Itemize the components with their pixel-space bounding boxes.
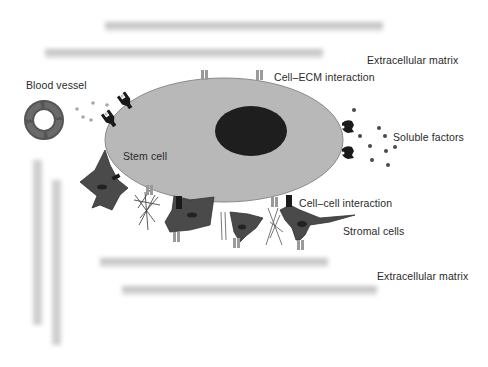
ecm-fibers-left [33, 160, 61, 345]
label-cell-ecm-interaction: Cell–ECM interaction [274, 72, 375, 83]
label-stromal-cells: Stromal cells [343, 226, 404, 237]
fiber-parallel [221, 212, 226, 240]
label-soluble-factors: Soluble factors [393, 132, 464, 143]
stromal-cell-middle [165, 196, 214, 242]
fiber-mesh-left [134, 190, 160, 230]
label-ecm-top: Extracellular matrix [367, 55, 458, 66]
label-ecm-bottom: Extracellular matrix [377, 271, 468, 282]
receptor-right-lower [342, 146, 355, 159]
ecm-fibers-bottom [100, 258, 377, 295]
receptor-right-upper [342, 120, 355, 133]
blood-vessel-icon [29, 105, 59, 135]
label-stem-cell: Stem cell [123, 151, 167, 162]
label-cell-cell-interaction: Cell–cell interaction [299, 198, 392, 209]
stromal-cell-middle-right [230, 212, 263, 248]
fiber-mesh-right [266, 208, 283, 245]
integrin-top-right [256, 70, 263, 80]
integrin-bottom-right [271, 197, 278, 207]
label-blood-vessel: Blood vessel [26, 80, 87, 91]
ecm-fibers-top [45, 22, 383, 58]
nucleus [215, 106, 287, 156]
soluble-factors-right [352, 108, 397, 167]
